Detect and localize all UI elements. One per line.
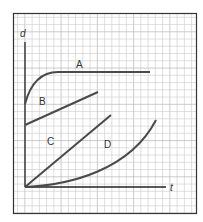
label-c: C — [47, 136, 54, 147]
label-d: D — [104, 139, 111, 150]
y-axis-label: d — [20, 28, 26, 39]
graph-figure: d t A B C D — [0, 0, 203, 222]
label-a: A — [76, 59, 83, 70]
label-b: B — [39, 96, 46, 107]
